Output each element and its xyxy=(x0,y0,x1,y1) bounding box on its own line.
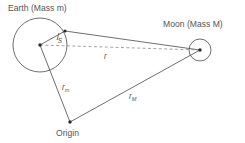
origin-point xyxy=(68,120,71,123)
label-separation-r: r xyxy=(104,52,107,61)
moon-center-point xyxy=(198,48,201,51)
diagram-canvas: Earth (Mass m) Moon (Mass M) s r rm rM O… xyxy=(0,0,245,143)
label-radius-s: s xyxy=(58,36,62,45)
physics-diagram-figure: Earth (Mass m) Moon (Mass M) s r rm rM O… xyxy=(0,0,245,143)
earth-surface-point xyxy=(63,29,66,32)
earth-center-point xyxy=(38,43,41,46)
moon-body-label: Moon (Mass M) xyxy=(163,19,223,29)
segment-origin-to-earth-rm xyxy=(40,45,70,122)
label-vector-rm-subscript: m xyxy=(65,87,70,93)
label-vector-rM-subscript: M xyxy=(132,96,137,102)
origin-label: Origin xyxy=(56,128,79,138)
segment-center-separation-r xyxy=(40,45,200,50)
earth-body-label: Earth (Mass m) xyxy=(8,3,67,13)
segment-surface-to-moon xyxy=(65,31,200,50)
label-vector-rm: rm xyxy=(62,83,70,93)
label-vector-rM: rM xyxy=(129,92,137,102)
segment-origin-to-moon-rM xyxy=(70,50,200,122)
